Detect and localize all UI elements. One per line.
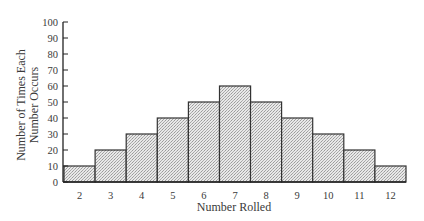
y-tick-label: 10 <box>48 161 59 172</box>
histogram-chart: 0102030405060708090100 23456789101112 Nu… <box>0 0 424 221</box>
bar-9 <box>282 118 313 182</box>
x-tick-label: 5 <box>170 190 175 201</box>
x-tick-label: 4 <box>139 190 145 201</box>
bars-group <box>64 86 406 182</box>
bar-4 <box>126 134 157 182</box>
bar-6 <box>188 102 219 182</box>
x-tick-label: 10 <box>323 190 334 201</box>
y-tick-label: 0 <box>53 177 58 188</box>
x-tick-label: 11 <box>354 190 364 201</box>
y-axis-title-line: Number of Times Each <box>14 49 28 161</box>
x-axis-title: Number Rolled <box>197 200 271 214</box>
x-tick-label: 3 <box>108 190 113 201</box>
x-tick-label: 9 <box>295 190 300 201</box>
y-tick-label: 90 <box>48 33 59 44</box>
bar-12 <box>375 166 406 182</box>
bar-3 <box>95 150 126 182</box>
x-tick-label: 12 <box>385 190 396 201</box>
y-tick-label: 30 <box>48 129 59 140</box>
x-axis: 23456789101112 <box>63 182 406 201</box>
y-tick-label: 100 <box>42 17 58 28</box>
y-tick-label: 70 <box>48 65 59 76</box>
bar-8 <box>251 102 282 182</box>
x-tick-label: 2 <box>77 190 82 201</box>
y-tick-label: 40 <box>48 113 59 124</box>
y-axis: 0102030405060708090100 <box>42 17 68 188</box>
bar-11 <box>344 150 375 182</box>
y-tick-label: 50 <box>48 97 59 108</box>
bar-10 <box>313 134 344 182</box>
y-tick-label: 80 <box>48 49 59 60</box>
y-tick-label: 60 <box>48 81 59 92</box>
bar-7 <box>220 86 251 182</box>
bar-2 <box>64 166 95 182</box>
bar-5 <box>157 118 188 182</box>
y-tick-label: 20 <box>48 145 59 156</box>
y-axis-title-line: Number Occurs <box>27 67 41 144</box>
